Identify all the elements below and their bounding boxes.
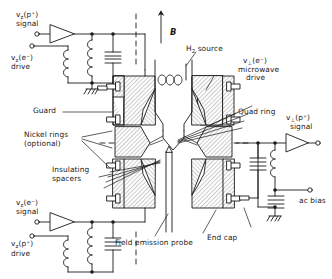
circuit-right <box>236 134 320 221</box>
end-cap-label: End cap <box>207 234 237 243</box>
guard-label: Guard <box>33 107 56 116</box>
port-label-bottom-left-drive-line1: vz(p⁺) <box>11 240 33 249</box>
h2-source-label: H2 source <box>186 45 223 54</box>
port-label-bottom-left-drive-line2: drive <box>11 250 30 259</box>
nickel-rings-label-line2: (optional) <box>24 140 61 149</box>
port-label-top-left-drive-line2: drive <box>11 63 30 72</box>
port-label-top-left-signal-line2: signal <box>16 20 38 29</box>
microwave-drive-label-line3: drive <box>246 74 265 83</box>
port-label-bottom-left-signal-line2: signal <box>16 208 38 217</box>
port-label-right-signal-line2: signal <box>290 123 312 132</box>
ac-bias-label: ac bias <box>299 197 326 206</box>
trap-right-assembly <box>192 76 249 208</box>
quad-ring-label: Quad ring <box>238 108 275 117</box>
insulating-spacers-label-line2: spacers <box>52 175 81 184</box>
magnetic-field-label: B <box>170 28 176 37</box>
field-emission-probe-label: Field emission probe <box>115 239 193 248</box>
trap-left-assembly <box>98 76 155 208</box>
field-emission-probe <box>166 146 172 232</box>
penning-trap-diagram: B H2 source v⊥(e⁻) microwave drive Quad … <box>0 0 332 279</box>
